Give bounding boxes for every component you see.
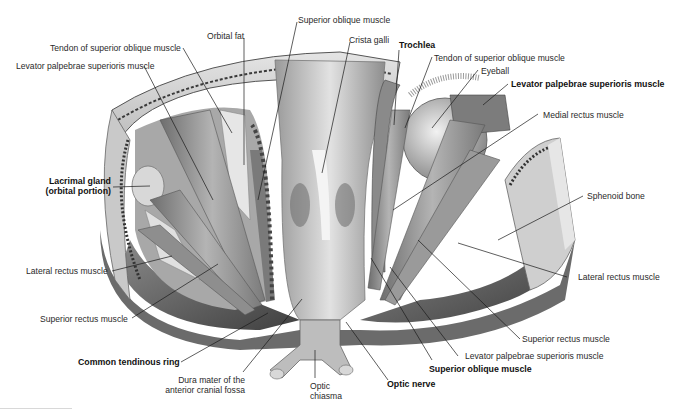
label-dura-mater-line2: anterior cranial fossa [160,385,245,395]
label-trochlea: Trochlea [399,40,435,50]
label-optic-chiasma: Optic chiasma [310,381,342,401]
bottom-rule-divider [0,408,72,409]
label-lacrimal-gland-line1: Lacrimal gland [36,176,111,186]
label-optic-nerve: Optic nerve [387,379,435,389]
label-superior-oblique-muscle-bottom: Superior oblique muscle [429,364,532,374]
label-levator-palpebrae-bottom: Levator palpebrae superioris muscle [465,351,604,361]
label-lateral-rectus-right: Lateral rectus muscle [578,272,660,282]
label-tendon-superior-oblique-left: Tendon of superior oblique muscle [50,43,181,53]
label-orbital-fat: Orbital fat [207,31,244,41]
anatomy-figure: Superior oblique muscle Orbital fat Cris… [0,0,677,410]
label-levator-palpebrae-right: Levator palpebrae superioris muscle [511,79,665,89]
label-lateral-rectus-left: Lateral rectus muscle [26,266,108,276]
label-superior-oblique-muscle-top: Superior oblique muscle [298,15,390,25]
label-superior-rectus-left: Superior rectus muscle [40,314,128,324]
label-dura-mater: Dura mater of the anterior cranial fossa [160,375,245,395]
label-sphenoid-bone: Sphenoid bone [587,191,645,201]
label-lacrimal-gland-line2: (orbital portion) [36,186,111,196]
label-optic-chiasma-line2: chiasma [310,391,342,401]
label-optic-chiasma-line1: Optic [310,381,342,391]
label-dura-mater-line1: Dura mater of the [160,375,245,385]
label-tendon-superior-oblique-right: Tendon of superior oblique muscle [434,53,565,63]
label-levator-palpebrae-left: Levator palpebrae superioris muscle [16,61,155,71]
label-crista-galli: Crista galli [349,35,389,45]
label-common-tendinous-ring: Common tendinous ring [78,357,180,367]
label-superior-rectus-right: Superior rectus muscle [522,334,610,344]
label-eyeball: Eyeball [481,66,509,76]
label-lacrimal-gland: Lacrimal gland (orbital portion) [36,176,111,196]
label-medial-rectus-muscle: Medial rectus muscle [543,110,624,120]
